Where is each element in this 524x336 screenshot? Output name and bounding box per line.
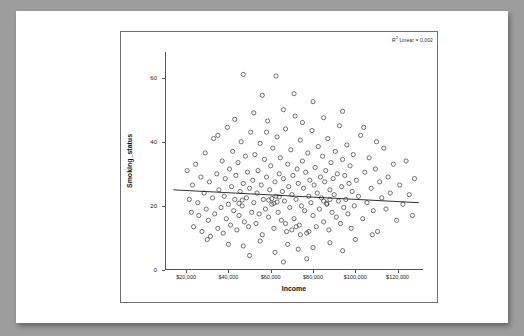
data-point <box>378 180 382 184</box>
data-point <box>260 93 264 97</box>
data-point <box>404 159 408 163</box>
data-point <box>281 108 285 112</box>
data-point <box>286 242 290 246</box>
data-point <box>359 133 363 137</box>
data-point <box>225 125 229 129</box>
data-point <box>252 111 256 115</box>
data-point <box>320 154 324 158</box>
data-point <box>370 233 374 237</box>
data-point <box>341 109 345 113</box>
data-point <box>332 193 336 197</box>
data-point <box>253 152 257 156</box>
data-point <box>351 152 355 156</box>
x-tick-mark <box>398 270 399 273</box>
data-point <box>250 210 254 214</box>
data-point <box>206 218 210 222</box>
data-point <box>187 197 191 201</box>
data-point <box>352 204 356 208</box>
data-point <box>305 257 309 261</box>
data-point <box>350 189 354 193</box>
data-point <box>391 162 395 166</box>
data-point <box>369 186 373 190</box>
r-squared-annotation: R2 Linear = 0.002 <box>392 35 433 43</box>
data-point <box>312 183 316 187</box>
data-point <box>203 151 207 155</box>
data-point <box>197 213 201 217</box>
y-tick-label: 60 <box>150 75 157 81</box>
data-point <box>259 183 263 187</box>
x-tick-mark <box>186 270 187 273</box>
data-point <box>300 159 304 163</box>
x-tick-label: $120,000 <box>386 274 409 280</box>
data-point <box>348 164 352 168</box>
data-point <box>324 169 328 173</box>
data-point <box>226 242 230 246</box>
x-tick-label: $100,000 <box>344 274 367 280</box>
data-point <box>204 207 208 211</box>
data-point <box>286 162 290 166</box>
data-point <box>301 186 305 190</box>
data-point <box>272 226 276 230</box>
x-tick-label: $20,000 <box>176 274 196 280</box>
data-point <box>223 177 227 181</box>
data-point <box>384 207 388 211</box>
data-point <box>290 228 294 232</box>
data-point <box>335 172 339 176</box>
data-point <box>233 117 237 121</box>
data-point <box>242 220 246 224</box>
data-point <box>382 146 386 150</box>
data-point <box>336 199 340 203</box>
data-point <box>311 245 315 249</box>
data-point <box>268 188 272 192</box>
data-point <box>285 229 289 233</box>
data-point <box>309 201 313 205</box>
data-point <box>263 207 267 211</box>
data-point <box>291 173 295 177</box>
data-point <box>298 233 302 237</box>
data-point <box>363 170 367 174</box>
data-point <box>334 215 338 219</box>
data-point <box>342 205 346 209</box>
x-tick-mark <box>228 270 229 273</box>
data-point <box>251 178 255 182</box>
data-point <box>226 202 230 206</box>
data-point <box>200 229 204 233</box>
data-point <box>394 218 398 222</box>
data-point <box>375 229 379 233</box>
data-point <box>212 136 216 140</box>
data-point <box>293 114 297 118</box>
data-point <box>243 154 247 158</box>
document-sheet: R2 Linear = 0.002 $20,000$40,000$60,000$… <box>16 11 508 323</box>
y-tick-label: 40 <box>150 139 157 145</box>
data-point <box>221 231 225 235</box>
data-point <box>247 186 251 190</box>
x-tick-label: $40,000 <box>218 274 238 280</box>
data-point <box>190 183 194 187</box>
plot-area[interactable]: $20,000$40,000$60,000$80,000$100,000$120… <box>165 52 423 270</box>
chart-frame[interactable]: R2 Linear = 0.002 $20,000$40,000$60,000$… <box>120 31 438 303</box>
data-point <box>245 170 249 174</box>
data-point <box>292 92 296 96</box>
data-point <box>279 218 283 222</box>
data-point <box>249 130 253 134</box>
data-point <box>280 189 284 193</box>
data-point <box>322 220 326 224</box>
data-point <box>380 196 384 200</box>
data-point <box>317 207 321 211</box>
data-point <box>341 249 345 253</box>
data-point <box>371 209 375 213</box>
data-point <box>234 173 238 177</box>
data-point <box>346 212 350 216</box>
scatter-plot-svg <box>165 52 423 270</box>
data-point <box>295 167 299 171</box>
data-point <box>316 144 320 148</box>
data-point <box>407 193 411 197</box>
data-point <box>233 197 237 201</box>
data-point <box>196 201 200 205</box>
regression-line <box>173 190 418 203</box>
data-point <box>241 72 245 76</box>
y-tick-mark <box>162 78 165 79</box>
data-point <box>265 119 269 123</box>
data-point <box>236 161 240 165</box>
data-point <box>367 156 371 160</box>
